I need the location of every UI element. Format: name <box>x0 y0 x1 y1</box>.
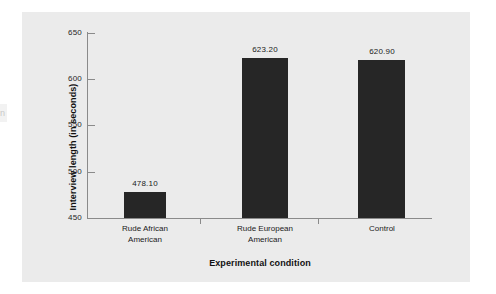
bar-rude-african-american <box>124 192 166 218</box>
bar-rude-european-american <box>242 58 288 218</box>
plot-area: 650 600 550 500 450 478.10 623.20 620.90… <box>0 0 496 294</box>
y-tick-500 <box>88 172 95 173</box>
x-category-label-2-line-1: Control <box>327 224 437 235</box>
x-category-label-1-line-2: American <box>210 235 320 246</box>
x-category-label-2: Control <box>327 224 437 235</box>
x-axis-title: Experimental condition <box>135 258 385 268</box>
bar-control <box>358 60 405 218</box>
bar-value-control: 620.90 <box>342 47 422 56</box>
x-category-label-1-line-1: Rude European <box>210 224 320 235</box>
x-category-label-0-line-2: American <box>90 235 200 246</box>
y-axis-title-wrap: Interview length (in seconds) <box>46 30 64 220</box>
y-tick-550 <box>88 125 95 126</box>
x-category-label-0-line-1: Rude African <box>90 224 200 235</box>
x-axis-line <box>87 218 432 219</box>
x-category-label-0: Rude African American <box>90 224 200 245</box>
y-tick-650 <box>88 33 95 34</box>
x-category-label-1: Rude European American <box>210 224 320 245</box>
figure: n 650 600 550 500 450 478.10 623.20 620.… <box>0 0 496 294</box>
y-tick-600 <box>88 79 95 80</box>
bar-value-rude-european-american: 623.20 <box>225 45 305 54</box>
x-tick-1 <box>200 219 201 224</box>
y-axis-title: Interview length (in seconds) <box>68 62 78 232</box>
bar-value-rude-african-american: 478.10 <box>105 179 185 188</box>
